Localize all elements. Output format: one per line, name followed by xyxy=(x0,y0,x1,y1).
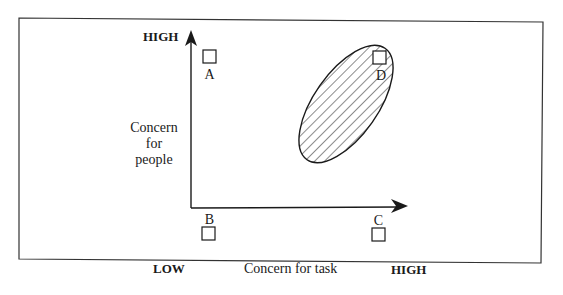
point-b: B xyxy=(202,212,215,240)
x-axis xyxy=(191,199,408,213)
point-label: A xyxy=(204,67,215,82)
hatched-ellipse-region xyxy=(260,20,440,190)
y-axis xyxy=(185,30,197,208)
y-axis-title-line-3: people xyxy=(135,152,172,167)
y-axis-title-line-2: for xyxy=(146,136,163,151)
point-a: A xyxy=(203,50,216,82)
square-marker-icon xyxy=(203,50,216,63)
point-label: B xyxy=(205,212,214,227)
x-axis-arrowhead-icon xyxy=(391,199,408,213)
y-axis-title-line-1: Concern xyxy=(130,120,177,135)
point-label: C xyxy=(374,213,383,228)
square-marker-icon xyxy=(202,227,215,240)
square-marker-icon xyxy=(373,51,386,64)
square-marker-icon xyxy=(372,228,385,241)
point-label: D xyxy=(376,68,386,83)
x-axis-title: Concern for task xyxy=(244,261,337,276)
y-axis-high-label: HIGH xyxy=(143,29,178,44)
point-c: C xyxy=(372,213,385,241)
managerial-grid-diagram: A B C D HIGH Concern for people LOW Conc… xyxy=(0,0,563,295)
frame-border xyxy=(19,18,543,263)
y-axis-low-label: LOW xyxy=(153,261,185,276)
x-axis-high-label: HIGH xyxy=(391,262,426,277)
